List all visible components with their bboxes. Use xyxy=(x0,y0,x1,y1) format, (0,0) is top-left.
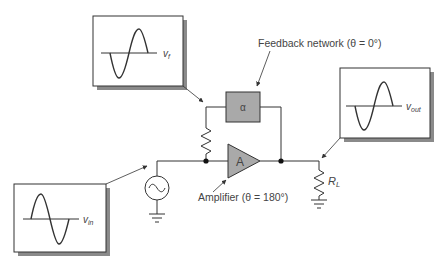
output-waveform-box: vout xyxy=(340,68,434,142)
vin-pointer-arrow xyxy=(106,166,147,184)
junction-node-right xyxy=(278,158,283,163)
ground-icon xyxy=(149,214,165,222)
ac-source-icon xyxy=(145,176,169,200)
vout-pointer-arrow xyxy=(322,138,340,158)
ground-icon xyxy=(311,200,327,208)
svg-text:α: α xyxy=(240,102,246,113)
feedback-network-block: α xyxy=(226,92,260,122)
feedback-pointer-arrow xyxy=(257,51,270,86)
load-resistor-icon xyxy=(314,161,324,200)
amplifier-block: A xyxy=(228,144,260,178)
input-waveform-box: vin xyxy=(14,184,110,256)
junction-node-left xyxy=(203,158,208,163)
load-resistor-label: RL xyxy=(328,175,340,189)
feedback-waveform-box: vf xyxy=(93,16,187,90)
feedback-network-label: Feedback network (θ = 0°) xyxy=(258,37,382,49)
vf-pointer-arrow xyxy=(183,86,203,102)
svg-text:A: A xyxy=(236,155,244,169)
amplifier-label: Amplifier (θ = 180°) xyxy=(198,191,288,203)
circuit-diagram: vf Feedback network (θ = 0°) α A xyxy=(0,0,444,274)
feedback-resistor-icon xyxy=(201,124,211,161)
